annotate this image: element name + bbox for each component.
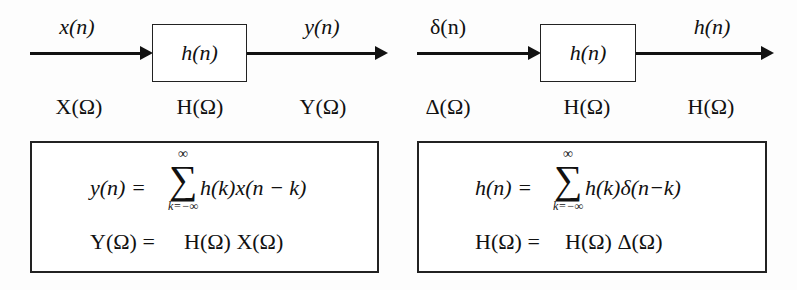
sum-lower-limit: k=−∞ — [161, 200, 205, 212]
output-arrow-head-icon — [375, 46, 388, 60]
system-block-label: h(n) — [570, 40, 607, 66]
system-block: h(n) — [540, 24, 636, 82]
output-arrow-line — [247, 52, 377, 55]
input-spectrum-label: X(Ω) — [24, 94, 134, 120]
equation-panel: h(n) = ∞ ∑ k=−∞ h(k)δ(n−k) H(Ω) = H(Ω) Δ… — [417, 141, 767, 273]
summation: ∞ ∑ k=−∞ — [161, 148, 205, 212]
eq1-rhs: h(k)δ(n−k) — [585, 175, 681, 201]
output-arrow-head-icon — [761, 46, 774, 60]
eq2-rhs: H(Ω) Δ(Ω) — [565, 229, 663, 255]
output-arrow-line — [636, 52, 763, 55]
eq1-lhs: y(n) = — [90, 175, 146, 201]
equation-panel: y(n) = ∞ ∑ k=−∞ h(k)x(n − k) Y(Ω) = H(Ω)… — [30, 141, 379, 273]
input-signal-label: δ(n) — [393, 14, 503, 40]
system-block: h(n) — [152, 24, 247, 82]
system-spectrum-label: H(Ω) — [145, 94, 255, 120]
eq1-rhs: h(k)x(n − k) — [200, 175, 306, 201]
output-spectrum-label: Y(Ω) — [268, 94, 378, 120]
output-signal-label: y(n) — [267, 14, 377, 40]
summation: ∞ ∑ k=−∞ — [546, 148, 590, 212]
sigma-icon: ∑ — [546, 160, 590, 200]
output-signal-label: h(n) — [657, 14, 767, 40]
input-arrow-line — [30, 52, 142, 55]
system-spectrum-label: H(Ω) — [532, 94, 642, 120]
system-block-label: h(n) — [181, 40, 218, 66]
eq2-lhs: H(Ω) = — [475, 229, 540, 255]
input-arrow-line — [417, 52, 530, 55]
eq1-lhs: h(n) = — [475, 175, 532, 201]
sum-lower-limit: k=−∞ — [546, 200, 590, 212]
input-spectrum-label: Δ(Ω) — [393, 94, 503, 120]
eq2-lhs: Y(Ω) = — [90, 229, 155, 255]
input-signal-label: x(n) — [22, 14, 132, 40]
eq2-rhs: H(Ω) X(Ω) — [184, 229, 283, 255]
output-spectrum-label: H(Ω) — [656, 94, 766, 120]
sigma-icon: ∑ — [161, 160, 205, 200]
